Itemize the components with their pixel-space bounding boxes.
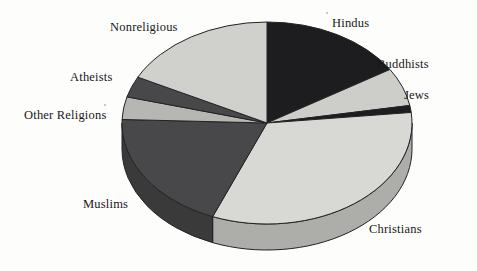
slice-label-christians: Christians <box>369 223 422 236</box>
slice-label-buddhists: Buddhists <box>377 58 429 71</box>
slice-label-hindus: Hindus <box>332 17 369 30</box>
scan-speck-2 <box>104 104 106 106</box>
pie-slices-group <box>122 22 412 224</box>
slice-label-nonreligious: Nonreligious <box>110 21 178 34</box>
slice-label-jews: Jews <box>404 89 429 102</box>
pie-chart-figure: Hindus Buddhists Jews Christians Muslims… <box>0 0 477 271</box>
scan-speck-1 <box>326 12 328 14</box>
slice-label-other-religions: Other Religions <box>24 109 107 122</box>
slice-label-atheists: Atheists <box>70 71 113 84</box>
slice-label-muslims: Muslims <box>83 198 128 211</box>
